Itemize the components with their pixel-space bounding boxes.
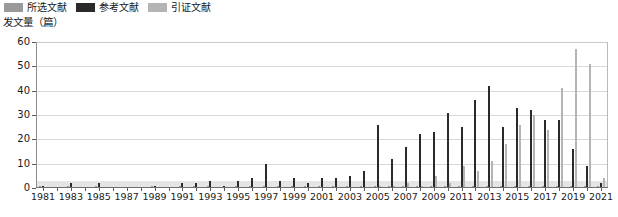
x-axis-tick	[224, 188, 225, 191]
x-axis-tick-label: 2021	[589, 192, 613, 202]
x-axis-tick	[280, 188, 281, 191]
bar	[463, 166, 465, 188]
legend-swatch-citations	[148, 3, 167, 12]
bar	[561, 88, 563, 188]
bar-group	[343, 42, 357, 188]
x-axis-tick-label: 1993	[198, 192, 222, 202]
x-axis-tick	[392, 188, 393, 191]
x-axis-tick-label: 2017	[533, 192, 557, 202]
bar-group	[580, 42, 594, 188]
bar-group	[371, 42, 385, 188]
legend-swatch-selected	[4, 3, 23, 12]
x-axis-tick-label: 2001	[310, 192, 334, 202]
legend-item-selected: 所选文献	[4, 3, 67, 13]
bar-group	[50, 42, 64, 188]
bar	[547, 130, 549, 188]
x-axis-tick-label: 2003	[338, 192, 362, 202]
bar	[519, 125, 521, 188]
bar-group	[552, 42, 566, 188]
bar-group	[273, 42, 287, 188]
x-axis-tick	[448, 188, 449, 191]
x-axis-tick-label: 1985	[87, 192, 111, 202]
x-axis-tick	[587, 188, 588, 191]
legend-item-citations: 引证文献	[148, 3, 211, 13]
x-axis-tick	[420, 188, 421, 191]
y-axis-tick-label: 10	[17, 159, 30, 169]
x-axis-tick	[169, 188, 170, 191]
x-axis-tick-label: 1991	[170, 192, 194, 202]
bar-group	[287, 42, 301, 188]
bar	[391, 159, 393, 188]
bar-group	[524, 42, 538, 188]
bar-group	[148, 42, 162, 188]
bar-series-container	[36, 42, 608, 188]
bar-group	[594, 42, 608, 188]
bar-group	[162, 42, 176, 188]
x-axis-tick-label: 1997	[254, 192, 278, 202]
y-axis-tick-label: 50	[17, 61, 30, 71]
x-axis-tick	[531, 188, 532, 191]
plot-area	[36, 42, 608, 188]
y-axis-labels: 0102030405060	[0, 42, 30, 188]
x-axis-tick-label: 2015	[505, 192, 529, 202]
y-axis-tick-label: 60	[17, 37, 30, 47]
x-axis-tick	[57, 188, 58, 191]
x-axis-tick-label: 1995	[226, 192, 250, 202]
x-axis-tick-label: 2019	[561, 192, 585, 202]
y-axis-tick-label: 40	[17, 86, 30, 96]
bar-group	[217, 42, 231, 188]
bar	[377, 125, 379, 188]
x-axis-tick-label: 1981	[31, 192, 55, 202]
legend-label-citations: 引证文献	[171, 3, 211, 13]
bar-group	[78, 42, 92, 188]
bar	[363, 171, 365, 188]
chart-root: 所选文献 参考文献 引证文献 发文量（篇） 0102030405060 1981…	[0, 0, 618, 217]
bar-group	[538, 42, 552, 188]
y-axis-tick	[32, 139, 36, 140]
x-axis-tick	[364, 188, 365, 191]
y-axis-tick-label: 0	[24, 183, 30, 193]
bar-group	[231, 42, 245, 188]
x-axis-tick-label: 2007	[394, 192, 418, 202]
bar-group	[329, 42, 343, 188]
x-axis-tick-label: 2011	[449, 192, 473, 202]
bar-group	[357, 42, 371, 188]
x-axis-tick	[308, 188, 309, 191]
y-axis-tick	[32, 115, 36, 116]
x-axis-tick	[113, 188, 114, 191]
bar	[575, 49, 577, 188]
y-axis-tick	[32, 66, 36, 67]
chart-legend: 所选文献 参考文献 引证文献	[4, 1, 220, 14]
x-axis-tick-label: 2005	[366, 192, 390, 202]
bar	[505, 144, 507, 188]
bar-group	[92, 42, 106, 188]
bar-group	[427, 42, 441, 188]
y-axis-tick-label: 20	[17, 134, 30, 144]
y-axis-tick	[32, 42, 36, 43]
x-axis-tick	[559, 188, 560, 191]
bar-group	[315, 42, 329, 188]
bar-group	[482, 42, 496, 188]
x-axis-tick	[196, 188, 197, 191]
x-axis-tick-label: 2009	[422, 192, 446, 202]
x-axis-tick	[141, 188, 142, 191]
y-axis-tick	[32, 91, 36, 92]
x-axis: 1981198319851987198919911993199519971999…	[36, 188, 608, 216]
bar-group	[399, 42, 413, 188]
bar	[491, 161, 493, 188]
bar-group	[36, 42, 50, 188]
bar-group	[176, 42, 190, 188]
bar-group	[301, 42, 315, 188]
bar	[477, 171, 479, 188]
x-axis-tick	[252, 188, 253, 191]
bar-group	[203, 42, 217, 188]
bar	[533, 115, 535, 188]
bar	[419, 134, 421, 188]
x-axis-tick-label: 1989	[142, 192, 166, 202]
x-axis-tick-label: 2013	[477, 192, 501, 202]
bar-group	[245, 42, 259, 188]
bar-group	[134, 42, 148, 188]
bar	[405, 147, 407, 188]
bar-group	[106, 42, 120, 188]
bar-group	[259, 42, 273, 188]
